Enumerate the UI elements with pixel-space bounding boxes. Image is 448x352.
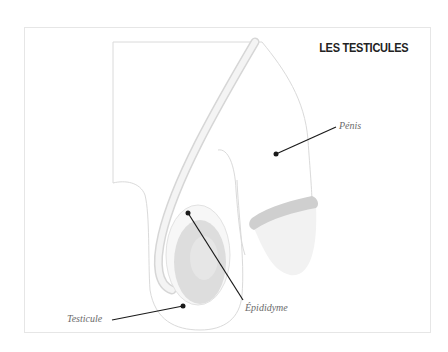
testicule-dot <box>181 304 186 309</box>
penis-leader <box>276 127 336 154</box>
penis-dot <box>274 152 279 157</box>
label-testicule: Testicule <box>67 313 102 324</box>
label-epididyme: Épididyme <box>245 302 288 313</box>
label-penis: Pénis <box>339 120 361 131</box>
anatomy-illustration <box>0 0 448 352</box>
epididyme-dot <box>186 211 191 216</box>
testicule-leader <box>112 306 183 320</box>
